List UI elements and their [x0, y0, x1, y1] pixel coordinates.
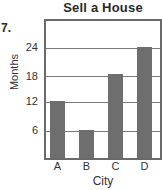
- x-tick-d: D: [137, 160, 152, 172]
- y-tick-24: 24: [22, 41, 38, 53]
- bar-b: [79, 130, 94, 158]
- y-tick-12: 12: [22, 95, 38, 107]
- x-tick-b: B: [79, 160, 94, 172]
- problem-number: 7.: [1, 21, 11, 35]
- bar-d: [137, 47, 152, 158]
- chart-title: Sell a House: [44, 0, 162, 16]
- x-axis-label: City: [44, 174, 162, 188]
- y-tick-6: 6: [22, 124, 38, 136]
- plot-area: [44, 19, 162, 160]
- x-tick-c: C: [108, 160, 123, 172]
- x-tick-a: A: [50, 160, 65, 172]
- y-axis-label: Months: [8, 52, 20, 92]
- bar-a: [50, 101, 65, 158]
- bar-c: [108, 74, 123, 158]
- y-tick-18: 18: [22, 70, 38, 82]
